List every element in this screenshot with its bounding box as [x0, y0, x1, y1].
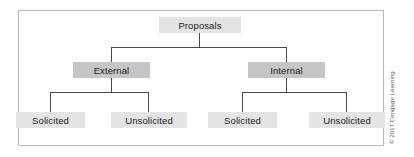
connector-external-horizontal-bar — [50, 92, 149, 93]
connector-internal-to-solicited — [242, 92, 243, 112]
connector-external-stem — [111, 78, 112, 92]
node-internal: Internal — [248, 62, 325, 78]
connector-root-to-internal — [286, 47, 287, 62]
node-internal-unsolicited: Unsolicited — [309, 112, 385, 128]
copyright-credit: © 2017 Cengage Learning — [389, 71, 395, 144]
connector-internal-stem — [286, 78, 287, 92]
proposals-hierarchy-figure: Proposals External Internal Solicited Un… — [0, 0, 414, 157]
connector-external-to-solicited — [50, 92, 51, 112]
connector-external-to-unsolicited — [148, 92, 149, 112]
connector-internal-horizontal-bar — [242, 92, 347, 93]
node-external-unsolicited: Unsolicited — [111, 112, 187, 128]
connector-root-to-external — [111, 47, 112, 62]
node-internal-solicited: Solicited — [208, 112, 277, 128]
connector-internal-to-unsolicited — [346, 92, 347, 112]
connector-root-horizontal-bar — [111, 47, 287, 48]
node-external-solicited: Solicited — [16, 112, 85, 128]
node-proposals: Proposals — [159, 17, 241, 33]
node-external: External — [73, 62, 150, 78]
connector-root-stem — [199, 33, 200, 48]
